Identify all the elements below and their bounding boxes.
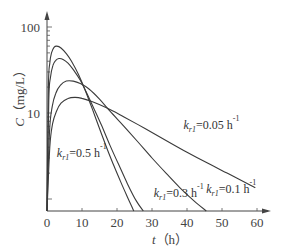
label-superscript: -1 [197, 182, 204, 191]
labels: kr1=0.5 h-1kr1=0.3 h-1kr1=0.1 h-1kr1=0.0… [57, 114, 256, 202]
curve-k-0_5 [47, 46, 134, 211]
label-subscript: r1 [62, 153, 69, 162]
label-superscript: -1 [249, 178, 256, 187]
x-axis-arrow-icon [262, 209, 271, 214]
x-axis-unit: （h） [156, 232, 189, 247]
y-axis-unit: （mg/L） [12, 64, 27, 118]
y-axis-arrow-icon [45, 11, 50, 20]
label-subscript: r1 [189, 125, 196, 134]
series-label-k-0_1: kr1=0.1 h-1 [206, 178, 256, 198]
series-label-k-0_5: kr1=0.5 h-1 [57, 142, 107, 162]
x-axis-title: t（h） [152, 232, 188, 247]
x-tick-label: 30 [146, 215, 159, 230]
y-tick-label: 100 [21, 20, 41, 35]
label-superscript: -1 [233, 114, 240, 123]
x-tick-label: 10 [76, 215, 89, 230]
x-tick-label: 60 [251, 215, 264, 230]
label-subscript: r1 [159, 193, 166, 202]
x-tick-label: 40 [181, 215, 194, 230]
curve-k-0_3 [47, 58, 143, 211]
label-value: =0.3 h [166, 186, 197, 200]
y-tick-label: 10 [27, 106, 40, 121]
label-superscript: -1 [100, 142, 107, 151]
x-tick-label: 20 [111, 215, 124, 230]
label-subscript: r1 [212, 189, 219, 198]
label-value: =0.5 h [69, 146, 100, 160]
concentration-time-chart: 010203040506010100C（mg/L）t（h） kr1=0.5 h-… [0, 0, 284, 251]
series-label-k-0_3: kr1=0.3 h-1 [154, 182, 204, 202]
x-tick-label: 0 [44, 215, 51, 230]
label-value: =0.1 h [219, 182, 250, 196]
y-axis-title: C（mg/L） [12, 64, 27, 127]
label-value: =0.05 h [196, 118, 233, 132]
y-axis-variable: C [12, 118, 27, 127]
series-label-k-0_05: kr1=0.05 h-1 [184, 114, 240, 134]
x-tick-label: 50 [216, 215, 229, 230]
